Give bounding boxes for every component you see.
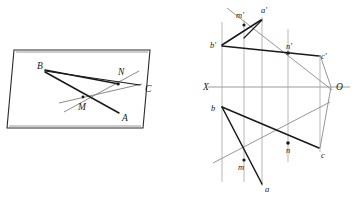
label-n-prime: n'	[286, 41, 292, 51]
label-a-prime: a'	[261, 5, 267, 15]
geometry-figure: B N C M A	[0, 0, 357, 199]
label-C: C	[145, 84, 152, 94]
line-through-A-and-N	[64, 71, 139, 112]
label-n: n	[286, 145, 290, 155]
label-axis-O: O	[336, 82, 343, 92]
point-n-prime	[286, 51, 290, 55]
point-N	[117, 83, 120, 86]
point-m-prime	[242, 23, 245, 26]
connector-axis-to-c	[320, 87, 331, 148]
label-m: m	[238, 162, 244, 172]
label-a: a	[265, 184, 269, 194]
point-M	[82, 96, 85, 99]
segment-b-to-c	[222, 107, 319, 148]
figure-canvas: B N C M A	[0, 0, 357, 199]
segment-bprime-to-aprime	[222, 20, 261, 45]
spatial-plane-view: B N C M A	[7, 50, 152, 128]
label-N: N	[117, 67, 125, 77]
label-A: A	[121, 113, 128, 123]
label-M: M	[77, 102, 87, 112]
label-B: B	[37, 61, 43, 71]
parallelogram-plane	[7, 50, 150, 128]
segment-b-to-a	[222, 107, 262, 184]
projection-ray-mprime-to-axis	[227, 8, 332, 90]
segment-bprime-to-cprime	[222, 46, 319, 56]
orthographic-projection-view: X O m' a' b' n' c' b n c m a	[202, 5, 350, 194]
label-m-prime: m'	[236, 10, 244, 20]
label-axis-X: X	[202, 82, 210, 92]
label-b: b	[211, 103, 215, 113]
label-b-prime: b'	[210, 40, 216, 50]
label-c-prime: c'	[321, 51, 327, 61]
label-c: c	[321, 150, 325, 160]
